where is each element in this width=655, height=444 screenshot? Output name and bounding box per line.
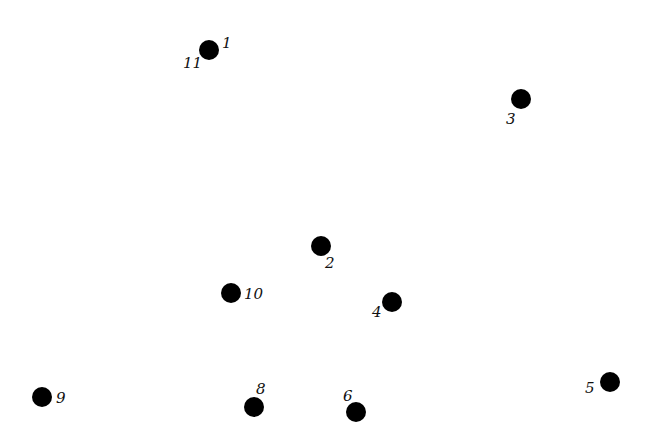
dot-label-2: 2 xyxy=(324,254,335,272)
dot-label-11: 11 xyxy=(183,54,202,72)
dot-8 xyxy=(244,397,264,417)
dot-5 xyxy=(600,372,620,392)
dot-6 xyxy=(346,402,366,422)
dot-9 xyxy=(32,387,52,407)
dot-label-1: 1 xyxy=(222,34,232,52)
dot-label-6: 6 xyxy=(343,387,353,405)
dot-label-9: 9 xyxy=(56,389,66,407)
dot-label-4: 4 xyxy=(371,303,382,321)
background xyxy=(0,0,655,444)
dot-label-10: 10 xyxy=(244,285,264,303)
dot-4 xyxy=(382,292,402,312)
dot-10 xyxy=(221,283,241,303)
dot-3 xyxy=(511,89,531,109)
dot-label-5: 5 xyxy=(585,379,595,397)
dot-label-8: 8 xyxy=(256,380,266,398)
connect-the-dots-diagram: 111321049865 xyxy=(0,0,655,444)
dot-2 xyxy=(311,236,331,256)
dot-label-3: 3 xyxy=(506,110,516,128)
